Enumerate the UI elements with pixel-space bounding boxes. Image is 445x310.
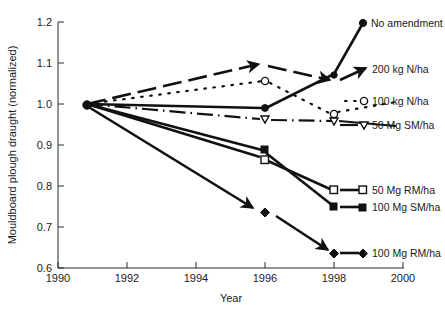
data-point-100-kg-n-ha-1996 [261, 77, 268, 84]
y-tick-label-0.8: 0.8 [37, 180, 52, 192]
x-tick-label-2000: 2000 [391, 272, 415, 284]
legend-marker-filled-circle [360, 20, 367, 27]
legend-label-50-mg-rm-ha: 50 Mg RM/ha [372, 184, 435, 196]
data-point-origin-1991 [83, 101, 91, 109]
legend-label-100-kg-n-ha: 100 kg N/ha [372, 95, 429, 107]
data-point-no-amendment-1996 [262, 105, 269, 112]
legend-item-no-amendment[interactable]: No amendment [360, 17, 443, 29]
legend-marker-arrow [340, 68, 366, 80]
legend-item-50-mg-rm-ha[interactable]: 50 Mg RM/ha [340, 184, 435, 196]
legend-label-100-mg-sm-ha: 100 Mg SM/ha [372, 201, 440, 213]
y-tick-label-0.7: 0.7 [37, 221, 52, 233]
legend-item-100-mg-rm-ha[interactable]: 100 Mg RM/ha [340, 247, 441, 259]
y-tick-label-1.1: 1.1 [37, 57, 52, 69]
chart-figure: Mouldboard plough draught (normalized) 1… [0, 0, 445, 310]
line-chart: Mouldboard plough draught (normalized) 1… [0, 0, 445, 310]
series-line-50-mg-sm-ha-seg2 [271, 120, 332, 121]
legend-label-200-kg-n-ha: 200 kg N/ha [372, 63, 429, 75]
legend-marker-open-square [359, 186, 367, 194]
legend-label-50-mg-sm-ha: 50 Mg SM/ha [372, 119, 435, 131]
legend-item-100-mg-sm-ha[interactable]: 100 Mg SM/ha [340, 201, 440, 213]
data-point-no-amendment-1998 [331, 72, 337, 78]
data-point-50-mg-rm-ha-1996 [261, 156, 269, 164]
x-tick-label-1994: 1994 [184, 272, 208, 284]
legend-marker-open-triangle-down [360, 122, 368, 129]
x-tick-label-1996: 1996 [253, 272, 277, 284]
legend-item-200-kg-n-ha[interactable]: 200 kg N/ha [340, 63, 429, 80]
data-point-100-mg-sm-ha-1996 [261, 146, 268, 153]
series-100-kg-n-ha [87, 77, 396, 117]
legend-item-100-kg-n-ha[interactable]: 100 kg N/ha [345, 95, 429, 107]
legend-marker-filled-diamond [359, 249, 368, 258]
series-line-100-mg-rm-ha-seg2 [276, 216, 328, 250]
legend-item-50-mg-sm-ha[interactable]: 50 Mg SM/ha [340, 119, 435, 131]
legend-marker-filled-square [359, 204, 366, 211]
data-point-100-mg-rm-ha-1998 [330, 249, 339, 258]
x-axis-title: Year [220, 292, 243, 304]
legend-label-100-mg-rm-ha: 100 Mg RM/ha [372, 247, 441, 259]
data-point-100-mg-rm-ha-1996 [261, 208, 270, 217]
series-line-200-kg-n-ha-seg2 [268, 66, 330, 80]
x-tick-label-1992: 1992 [115, 272, 139, 284]
legend-label-no-amendment: No amendment [371, 17, 443, 29]
y-tick-label-1.0: 1.0 [37, 98, 52, 110]
x-tick-marks [58, 262, 403, 268]
y-tick-label-0.9: 0.9 [37, 139, 52, 151]
series-line-100-kg-n-ha-seg2 [270, 83, 331, 114]
data-point-100-mg-sm-ha-1998 [330, 203, 337, 210]
data-point-100-kg-n-ha-1998 [330, 110, 337, 117]
series-200-kg-n-ha [87, 64, 330, 104]
data-point-50-mg-sm-ha-1998 [330, 118, 338, 125]
legend-marker-open-circle [360, 97, 367, 104]
legend: No amendment 200 kg N/ha 100 kg N/ha 50 … [340, 17, 443, 259]
series-line-50-mg-rm-ha-seg2 [268, 161, 330, 189]
x-tick-label-1990: 1990 [46, 272, 70, 284]
series-no-amendment [87, 20, 366, 112]
data-point-50-mg-rm-ha-1998 [330, 186, 338, 194]
y-tick-marks [58, 22, 64, 268]
y-axis-title: Mouldboard plough draught (normalized) [6, 46, 18, 245]
series-line-100-mg-rm-ha [87, 106, 253, 208]
series-line-100-mg-sm-ha-seg2 [266, 153, 332, 205]
y-tick-label-1.2: 1.2 [37, 16, 52, 28]
data-point-50-mg-sm-ha-1996 [261, 116, 269, 123]
x-tick-label-1998: 1998 [322, 272, 346, 284]
series-line-no-amendment-seg2 [266, 23, 363, 108]
series-line-no-amendment [87, 104, 262, 108]
